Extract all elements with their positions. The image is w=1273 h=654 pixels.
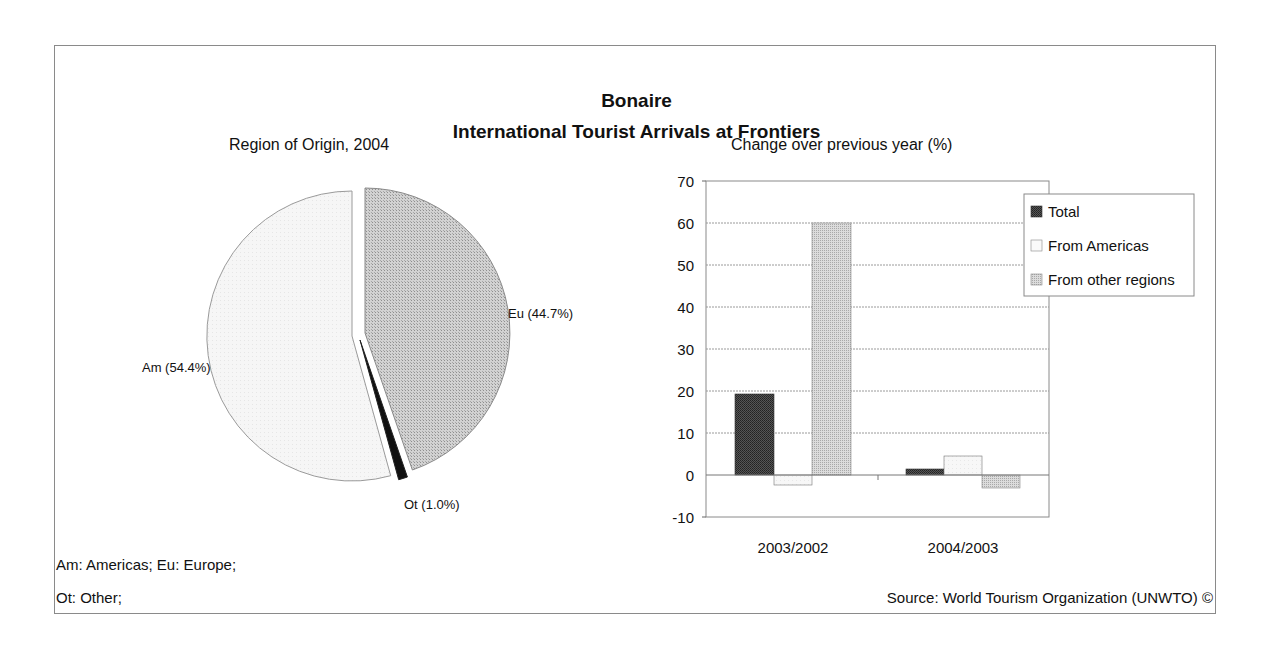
legend-label-americas: From Americas xyxy=(1048,237,1149,254)
svg-text:70: 70 xyxy=(677,173,694,190)
abbrev-line-1: Am: Americas; Eu: Europe; xyxy=(56,556,236,573)
pie-label-americas: Am (54.4%) xyxy=(142,360,211,375)
legend-label-other: From other regions xyxy=(1048,271,1175,288)
legend: Total From Americas From other regions xyxy=(1024,194,1194,296)
legend-swatch-americas xyxy=(1031,240,1042,251)
svg-text:0: 0 xyxy=(686,467,694,484)
svg-text:60: 60 xyxy=(677,215,694,232)
pie-slice-americas xyxy=(207,191,391,481)
legend-swatch-other xyxy=(1031,274,1042,285)
pie-chart xyxy=(207,188,510,481)
bar-other-2003-2002 xyxy=(812,223,851,475)
bar-chart xyxy=(702,181,1049,517)
x-label-2004-2003: 2004/2003 xyxy=(928,539,999,556)
svg-text:-10: -10 xyxy=(672,509,694,526)
bar-total-2003-2002 xyxy=(735,394,774,475)
source-note: Source: World Tourism Organization (UNWT… xyxy=(887,589,1213,606)
legend-label-total: Total xyxy=(1048,203,1080,220)
bar-americas-2004-2003 xyxy=(944,456,982,475)
y-axis-labels: 70 60 50 40 30 20 10 0 -10 xyxy=(672,173,694,526)
legend-swatch-total xyxy=(1031,206,1042,217)
pie-label-europe: Eu (44.7%) xyxy=(508,306,573,321)
pie-label-other: Ot (1.0%) xyxy=(404,497,460,512)
svg-text:40: 40 xyxy=(677,299,694,316)
bar-total-2004-2003 xyxy=(906,469,944,475)
abbrev-line-2: Ot: Other; xyxy=(56,589,122,606)
svg-text:30: 30 xyxy=(677,341,694,358)
x-label-2003-2002: 2003/2002 xyxy=(758,539,829,556)
svg-text:10: 10 xyxy=(677,425,694,442)
bar-other-2004-2003 xyxy=(982,475,1020,488)
svg-text:50: 50 xyxy=(677,257,694,274)
bar-americas-2003-2002 xyxy=(774,475,812,485)
svg-text:20: 20 xyxy=(677,383,694,400)
